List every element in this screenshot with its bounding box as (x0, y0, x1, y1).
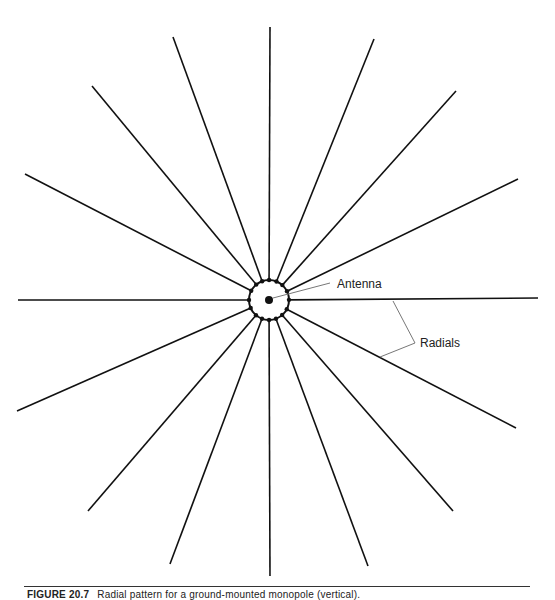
junction-dot (254, 313, 258, 317)
radial-line (276, 319, 368, 566)
junction-dot (280, 283, 284, 287)
junction-dot (260, 279, 264, 283)
radial-line (269, 27, 270, 280)
radials-callout: Radials (380, 301, 460, 357)
caption-text: Radial pattern for a ground-mounted mono… (97, 589, 360, 600)
junction-dot (247, 298, 251, 302)
junction-dot (254, 282, 258, 286)
radial-line (282, 91, 456, 285)
radial-line (88, 315, 256, 511)
radials-bracket-line (380, 301, 415, 357)
radials-label: Radials (420, 336, 460, 350)
figure-number: FIGURE 20.7 (27, 589, 89, 600)
junction-dot (274, 279, 278, 283)
junction-dot (267, 278, 271, 282)
antenna-label: Antenna (337, 277, 382, 291)
radial-line (25, 174, 251, 291)
junction-dot (287, 298, 291, 302)
radial-line (170, 319, 262, 564)
figure-caption: FIGURE 20.7Radial pattern for a ground-m… (27, 589, 360, 600)
antenna-icon (265, 296, 273, 304)
junction-dot (249, 289, 253, 293)
junction-dot (285, 307, 289, 311)
radial-line (269, 320, 270, 576)
caption-divider (24, 586, 530, 587)
junction-dot (260, 317, 264, 321)
radial-line (287, 309, 516, 428)
radial-line (276, 39, 374, 281)
radial-line (289, 298, 538, 300)
junction-dot (267, 318, 271, 322)
junction-dot (280, 313, 284, 317)
radial-line (287, 179, 518, 291)
junction-dot (285, 289, 289, 293)
radial-line (17, 308, 251, 411)
radial-line (92, 86, 256, 285)
junction-dot (274, 317, 278, 321)
radial-line (173, 37, 262, 281)
junction-dot (248, 306, 252, 310)
